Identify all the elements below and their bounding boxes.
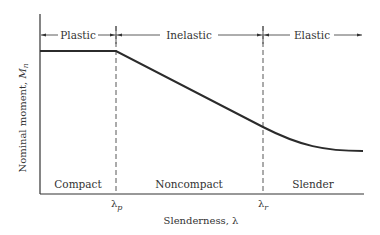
region-elastic: Elastic [264,29,362,41]
region-compact-label: Compact [54,178,102,190]
region-inelastic: Inelastic [117,29,262,41]
region-slender-label: Slender [292,178,334,190]
region-elastic-label: Elastic [294,29,330,41]
region-noncompact-label: Noncompact [155,178,223,190]
region-plastic-label: Plastic [60,29,96,41]
x-axis-label: Slenderness, λ [164,215,239,226]
region-plastic: Plastic [41,29,115,41]
lambda-p-label: λp [111,198,122,212]
moment-slenderness-diagram: Plastic Inelastic Elastic Compact Noncom… [0,0,380,235]
region-inelastic-label: Inelastic [166,29,212,41]
lambda-r-label: λr [258,198,269,212]
y-axis-label: Nominal moment, Mn [17,63,30,172]
moment-curve [40,51,363,151]
